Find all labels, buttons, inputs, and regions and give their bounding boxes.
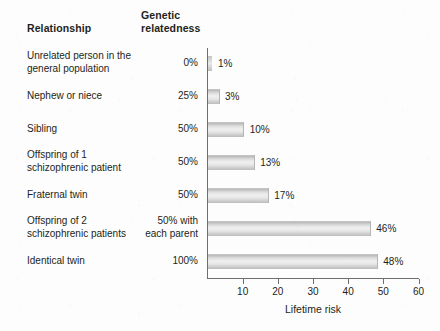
row-genetic-relatedness-value: 0% xyxy=(108,57,198,70)
row-genetic-relatedness-value: 50% xyxy=(108,123,198,136)
bar xyxy=(208,188,269,203)
bar-value-label: 13% xyxy=(260,155,280,170)
bar xyxy=(208,89,220,104)
bar-value-label: 46% xyxy=(376,221,396,236)
column-header-relationship: Relationship xyxy=(27,22,91,35)
x-axis-tick-label: 30 xyxy=(307,286,318,297)
row-genetic-relatedness-value: 50% with each parent xyxy=(108,215,198,240)
x-axis-tick xyxy=(348,279,349,284)
x-axis-tick xyxy=(278,279,279,284)
lifetime-risk-bar-chart: Relationship Genetic relatedness Unrelat… xyxy=(0,0,440,331)
x-axis-title: Lifetime risk xyxy=(207,303,419,315)
x-axis-tick-label: 50 xyxy=(378,286,389,297)
row-genetic-relatedness-value: 50% xyxy=(108,156,198,169)
bar-value-label: 3% xyxy=(225,89,239,104)
column-header-genetic-relatedness: Genetic relatedness xyxy=(141,9,198,34)
row-genetic-relatedness-value: 100% xyxy=(108,255,198,268)
bar-value-label: 48% xyxy=(383,254,403,269)
bar-value-label: 10% xyxy=(250,122,270,137)
x-axis-tick-label: 20 xyxy=(272,286,283,297)
row-genetic-relatedness-value: 50% xyxy=(108,189,198,202)
row-genetic-relatedness-value: 25% xyxy=(108,90,198,103)
bar xyxy=(208,254,378,269)
bar-value-label: 17% xyxy=(274,188,294,203)
bar xyxy=(208,155,255,170)
x-axis-tick-label: 60 xyxy=(413,286,424,297)
x-axis-tick xyxy=(243,279,244,284)
x-axis-tick xyxy=(419,279,420,284)
bar xyxy=(208,56,212,71)
x-axis-tick xyxy=(383,279,384,284)
x-axis-tick-label: 40 xyxy=(343,286,354,297)
bar xyxy=(208,122,244,137)
bar-value-label: 1% xyxy=(218,56,232,71)
bar xyxy=(208,221,371,236)
x-axis-tick-label: 10 xyxy=(237,286,248,297)
x-axis-tick xyxy=(313,279,314,284)
